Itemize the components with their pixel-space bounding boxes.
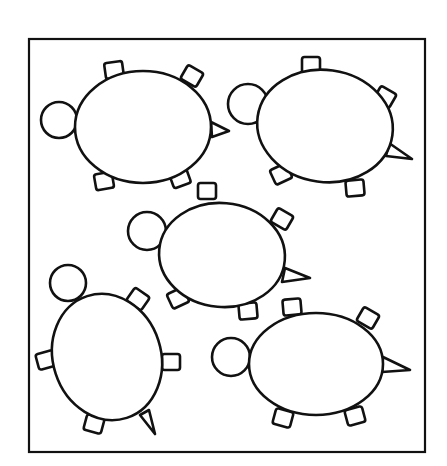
turtle-leg (162, 354, 180, 370)
turtle-shell (249, 313, 383, 415)
turtle-group (35, 57, 412, 435)
turtle-2 (228, 57, 412, 197)
figure-canvas: Line drawing of five turtles inside a sq… (0, 0, 447, 466)
turtle-head (41, 102, 77, 138)
turtle-tail (382, 357, 410, 372)
turtle-4 (35, 265, 180, 435)
turtle-head (50, 265, 86, 301)
turtle-head (212, 338, 250, 376)
turtle-1 (41, 61, 229, 191)
turtle-shell (75, 71, 211, 183)
turtle-leg (345, 179, 364, 197)
turtle-leg (282, 298, 301, 316)
turtle-tail (282, 268, 310, 282)
turtle-leg (198, 183, 216, 199)
turtles-drawing (0, 0, 447, 466)
turtle-shell (36, 279, 178, 434)
turtle-tail (140, 410, 155, 434)
turtle-tail (211, 122, 229, 137)
